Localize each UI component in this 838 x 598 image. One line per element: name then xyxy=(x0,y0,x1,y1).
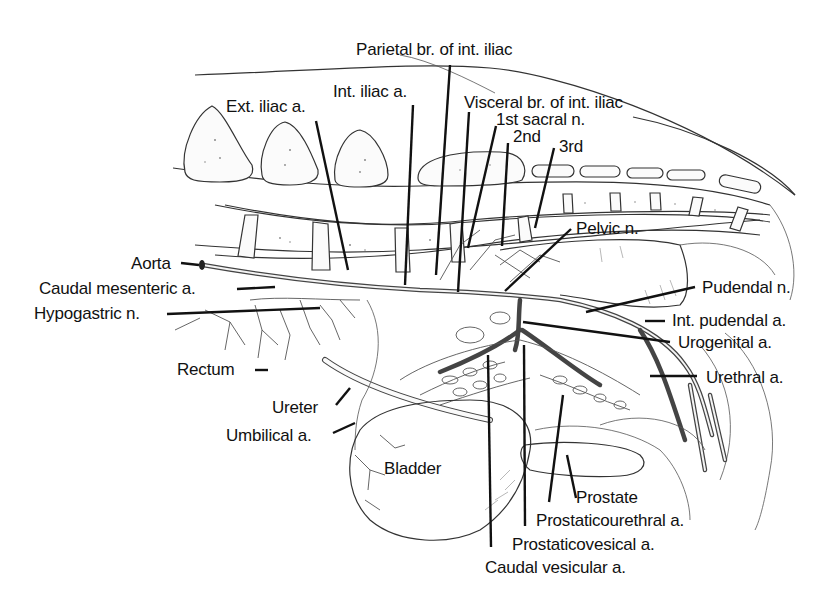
label-caudal-mesenteric-artery: Caudal mesenteric a. xyxy=(39,279,196,298)
label-parietal-branch-int-iliac: Parietal br. of int. iliac xyxy=(356,40,512,59)
label-hypogastric-nerve: Hypogastric n. xyxy=(34,304,140,323)
label-bladder: Bladder xyxy=(384,459,441,478)
umbilical-artery xyxy=(355,300,378,450)
label-urogenital-artery: Urogenital a. xyxy=(678,333,772,352)
pelvic-anatomy-drawing xyxy=(0,0,838,598)
label-ureter: Ureter xyxy=(272,398,318,417)
vertebral-processes xyxy=(184,106,762,194)
hypogastric-plexus xyxy=(175,298,360,360)
label-prostaticourethral-artery: Prostaticourethral a. xyxy=(536,511,684,530)
label-pudendal-nerve: Pudendal n. xyxy=(702,278,791,297)
label-int-iliac-artery: Int. iliac a. xyxy=(333,82,407,101)
anatomy-figure: Parietal br. of int. iliac Int. iliac a.… xyxy=(0,0,838,598)
label-ext-iliac-artery: Ext. iliac a. xyxy=(226,97,306,116)
label-prostate: Prostate xyxy=(576,488,638,507)
label-urethral-artery: Urethral a. xyxy=(706,368,783,387)
label-3rd-sacral-nerve: 3rd xyxy=(559,137,583,156)
label-aorta: Aorta xyxy=(131,254,171,273)
label-2nd-sacral-nerve: 2nd xyxy=(513,127,541,146)
label-umbilical-artery: Umbilical a. xyxy=(226,426,311,445)
label-prostaticovesical-artery: Prostaticovesical a. xyxy=(512,535,654,554)
label-rectum: Rectum xyxy=(177,360,234,379)
label-caudal-vesicular-artery: Caudal vesicular a. xyxy=(485,558,626,577)
label-int-pudendal-artery: Int. pudendal a. xyxy=(672,311,786,330)
label-pelvic-nerve: Pelvic n. xyxy=(576,219,638,238)
